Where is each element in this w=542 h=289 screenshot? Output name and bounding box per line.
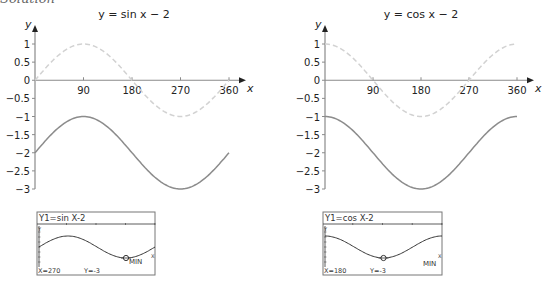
y-readout: Y=-3 xyxy=(369,267,386,275)
y-tick-label: −1 xyxy=(15,112,30,123)
y-tick-label: −0.5 xyxy=(6,93,30,104)
y-tick-label: 0.5 xyxy=(14,57,30,68)
y-tick-label: −2.5 xyxy=(296,166,320,177)
y-tick-label: 1 xyxy=(314,39,320,50)
y-readout: Y=-3 xyxy=(83,267,100,275)
y-tick-label: −3 xyxy=(15,184,30,195)
min-label: MIN xyxy=(423,260,436,268)
chart-title: y = cos x − 2 xyxy=(384,8,458,21)
svg-text:X: X xyxy=(438,253,442,259)
calculator-screen-cos: Y1=cos X-2YX=180Y=-3MINX xyxy=(323,212,442,275)
shifted-curve xyxy=(325,117,517,190)
y-tick-label: 0 xyxy=(24,75,30,86)
y-axis-label: y xyxy=(314,18,322,31)
svg-text:X: X xyxy=(151,253,155,259)
x-tick-label: 360 xyxy=(507,85,526,96)
y-tick-label: 1 xyxy=(24,39,30,50)
x-tick-label: 180 xyxy=(411,85,430,96)
x-axis-label: x xyxy=(534,82,542,95)
y-axis-arrow-icon xyxy=(322,25,328,32)
calculator-equation: Y1=sin X-2 xyxy=(38,213,85,223)
y-tick-label: −1.5 xyxy=(296,130,320,141)
x-tick-label: 90 xyxy=(367,85,380,96)
chart-sin: y = sin x − 2yx10.50−0.5−1−1.5−2−2.5−390… xyxy=(6,8,254,195)
x-tick-label: 180 xyxy=(122,85,141,96)
x-readout: X=270 xyxy=(38,267,60,275)
chart-title: y = sin x − 2 xyxy=(98,8,170,21)
y-axis-label: y xyxy=(24,18,32,31)
y-tick-label: −1 xyxy=(305,112,320,123)
x-tick-label: 270 xyxy=(171,85,190,96)
solution-heading: Solution xyxy=(0,0,55,6)
y-tick-label: −3 xyxy=(305,184,320,195)
y-axis-arrow-icon xyxy=(32,25,38,32)
y-tick-label: −1.5 xyxy=(6,130,30,141)
x-readout: X=180 xyxy=(324,267,346,275)
y-tick-label: 0 xyxy=(314,75,320,86)
x-axis-arrow-icon xyxy=(239,77,246,83)
calculator-equation: Y1=cos X-2 xyxy=(324,213,374,223)
shifted-curve xyxy=(35,117,229,190)
y-tick-label: −0.5 xyxy=(296,93,320,104)
calculator-screen-sin: Y1=sin X-2YX=270Y=-3MINX xyxy=(37,212,155,275)
chart-cos: y = cos x − 2yx10.50−0.5−1−1.5−2−2.5−390… xyxy=(296,8,542,195)
charts-canvas: y = sin x − 2yx10.50−0.5−1−1.5−2−2.5−390… xyxy=(0,0,542,289)
y-tick-label: −2.5 xyxy=(6,166,30,177)
y-tick-label: 0.5 xyxy=(304,57,320,68)
y-tick-label: −2 xyxy=(305,148,320,159)
y-tick-label: −2 xyxy=(15,148,30,159)
x-tick-label: 90 xyxy=(77,85,90,96)
min-label: MIN xyxy=(129,258,142,266)
x-axis-label: x xyxy=(246,82,254,95)
x-axis-arrow-icon xyxy=(527,77,534,83)
x-tick-label: 270 xyxy=(459,85,478,96)
figure: Solution y = sin x − 2yx10.50−0.5−1−1.5−… xyxy=(0,0,542,289)
